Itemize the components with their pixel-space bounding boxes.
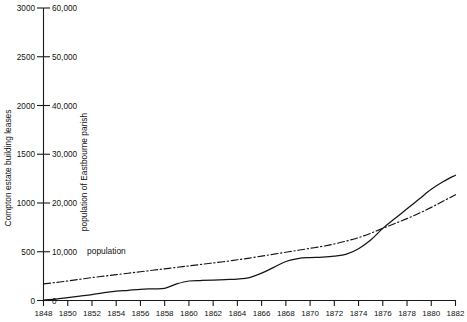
x-tick-label: 1864 [228,309,246,318]
left-y-axis: 050010001500200025003000 Compton estate … [3,4,44,306]
x-axis-ticks [44,301,456,307]
left-tick-label: 500 [21,248,35,257]
x-tick-label: 1848 [35,309,53,318]
x-tick-label: 1854 [107,309,125,318]
x-tick-label: 1850 [59,309,77,318]
x-axis: 1848185018521854185618581860186218641866… [35,301,465,319]
left-tick-label: 1500 [17,150,36,159]
x-tick-label: 1870 [301,309,319,318]
x-tick-label: 1856 [132,309,150,318]
x-tick-label: 1852 [83,309,101,318]
x-axis-tick-labels: 1848185018521854185618581860186218641866… [35,309,465,318]
right-tick-label: 60,000 [52,4,77,13]
left-axis-title: Compton estate building leases [3,110,13,227]
chart-container: 050010001500200025003000 Compton estate … [0,0,467,322]
x-tick-label: 1874 [350,309,368,318]
x-tick-label: 1876 [374,309,392,318]
right-tick-label: 20,000 [52,199,77,208]
right-tick-label: 10,000 [52,248,77,257]
x-tick-label: 1858 [156,309,174,318]
x-tick-label: 1860 [180,309,198,318]
left-axis-tick-labels: 050010001500200025003000 [17,4,36,306]
series-line-population [44,195,456,284]
right-tick-label: 50,000 [52,53,77,62]
right-axis-tick-labels: 010,00020,00030,00040,00050,00060,000 [52,4,77,306]
x-tick-label: 1868 [277,309,295,318]
right-tick-label: 30,000 [52,150,77,159]
x-tick-label: 1872 [325,309,343,318]
right-axis-ticks [44,8,51,301]
right-tick-label: 40,000 [52,102,77,111]
right-y-axis: 010,00020,00030,00040,00050,00060,000 po… [44,4,90,306]
left-tick-label: 3000 [17,4,36,13]
right-axis-title: population of Eastbourne parish [79,113,89,232]
population-and-leases-line-chart: 050010001500200025003000 Compton estate … [0,0,467,322]
x-tick-label: 1862 [204,309,222,318]
left-tick-label: 1000 [17,199,36,208]
x-tick-label: 1878 [398,309,416,318]
plot-area [44,175,456,300]
left-tick-label: 0 [30,297,35,306]
x-tick-label: 1866 [253,309,271,318]
x-tick-label: 1880 [422,309,440,318]
x-tick-label: 1882 [447,309,465,318]
series-line-compton-estate-building-leases [44,175,456,300]
left-axis-ticks [37,8,44,301]
left-tick-label: 2000 [17,102,36,111]
series-annotation-population: population [87,246,126,256]
left-tick-label: 2500 [17,53,36,62]
